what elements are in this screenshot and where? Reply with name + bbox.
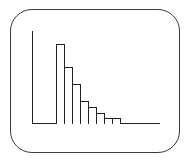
y-axis <box>32 31 33 124</box>
bar-8 <box>112 118 121 124</box>
chart-frame <box>10 9 180 153</box>
